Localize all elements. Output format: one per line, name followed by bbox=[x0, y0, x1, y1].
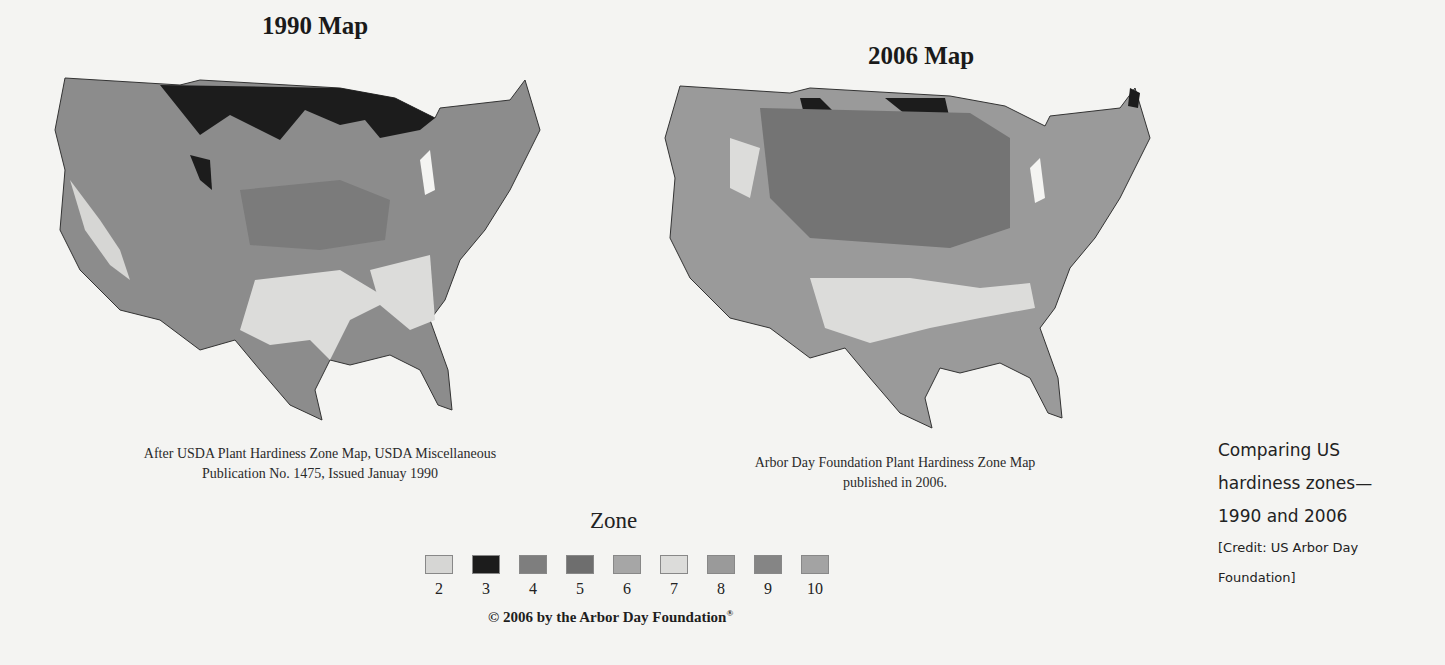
legend-item: 10 bbox=[801, 555, 829, 598]
legend-label: 4 bbox=[529, 580, 537, 598]
zone-legend: 2 3 4 5 6 7 8 9 10 bbox=[425, 555, 829, 598]
us-hardiness-map-2006 bbox=[650, 78, 1210, 438]
legend-swatch bbox=[519, 555, 547, 574]
legend-swatch bbox=[472, 555, 500, 574]
legend-label: 6 bbox=[623, 580, 631, 598]
credit-line: Foundation] bbox=[1218, 563, 1438, 593]
legend-item: 2 bbox=[425, 555, 453, 598]
legend-label: 3 bbox=[482, 580, 490, 598]
legend-swatch bbox=[566, 555, 594, 574]
legend-swatch bbox=[660, 555, 688, 574]
legend-item: 7 bbox=[660, 555, 688, 598]
caption-line: hardiness zones— bbox=[1218, 467, 1438, 500]
caption-line: Arbor Day Foundation Plant Hardiness Zon… bbox=[730, 453, 1060, 473]
legend-swatch bbox=[754, 555, 782, 574]
legend-label: 10 bbox=[807, 580, 823, 598]
legend-item: 5 bbox=[566, 555, 594, 598]
caption-line: Publication No. 1475, Issued Januay 1990 bbox=[70, 464, 570, 484]
legend-item: 8 bbox=[707, 555, 735, 598]
legend-label: 7 bbox=[670, 580, 678, 598]
legend-swatch bbox=[613, 555, 641, 574]
legend-label: 9 bbox=[764, 580, 772, 598]
legend-title: Zone bbox=[590, 508, 637, 534]
legend-swatch bbox=[425, 555, 453, 574]
legend-item: 9 bbox=[754, 555, 782, 598]
us-hardiness-map-1990 bbox=[40, 70, 600, 430]
legend-swatch bbox=[801, 555, 829, 574]
legend-item: 3 bbox=[472, 555, 500, 598]
map-title-1990: 1990 Map bbox=[262, 12, 368, 40]
legend-item: 6 bbox=[613, 555, 641, 598]
registered-mark: ® bbox=[726, 608, 733, 618]
legend-label: 8 bbox=[717, 580, 725, 598]
credit-line: [Credit: US Arbor Day bbox=[1218, 533, 1438, 563]
caption-line: After USDA Plant Hardiness Zone Map, USD… bbox=[70, 444, 570, 464]
caption-line: 1990 and 2006 bbox=[1218, 500, 1438, 533]
legend-item: 4 bbox=[519, 555, 547, 598]
caption-line: Comparing US bbox=[1218, 434, 1438, 467]
legend-label: 5 bbox=[576, 580, 584, 598]
caption-line: published in 2006. bbox=[730, 473, 1060, 493]
map-caption-2006: Arbor Day Foundation Plant Hardiness Zon… bbox=[730, 453, 1060, 493]
map-title-2006: 2006 Map bbox=[868, 42, 974, 70]
legend-label: 2 bbox=[435, 580, 443, 598]
figure-caption: Comparing US hardiness zones— 1990 and 2… bbox=[1218, 434, 1438, 593]
legend-swatch bbox=[707, 555, 735, 574]
copyright-text: © 2006 by the Arbor Day Foundation bbox=[488, 609, 726, 625]
map-caption-1990: After USDA Plant Hardiness Zone Map, USD… bbox=[70, 444, 570, 484]
copyright-notice: © 2006 by the Arbor Day Foundation® bbox=[488, 608, 733, 626]
